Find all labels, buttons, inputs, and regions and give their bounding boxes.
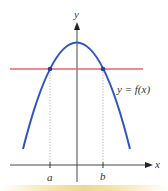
parabola-curve [23,43,130,150]
bottom-band [0,185,168,191]
y-axis-label: y [74,9,79,20]
diagram-canvas [0,0,168,191]
y-axis-arrow-icon [74,22,80,30]
curve-label: y = f(x) [117,84,150,95]
diagram-root: y x y = f(x) a b [0,0,168,191]
point-a-label: a [47,172,53,183]
x-axis-arrow-icon [145,162,153,168]
x-axis-label: x [155,159,160,170]
point-b-label: b [100,171,106,182]
intersection-point-a [48,67,53,72]
intersection-point-b [101,67,106,72]
